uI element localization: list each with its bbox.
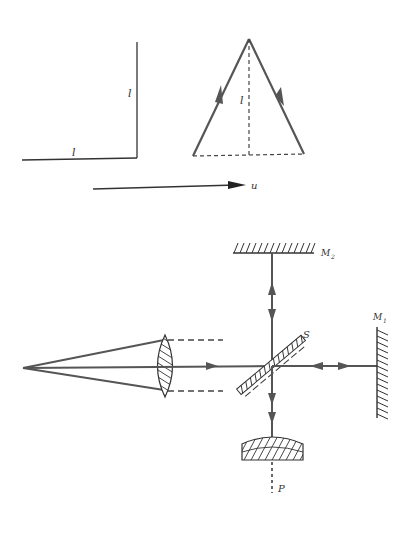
- splitter-label: S: [303, 329, 310, 340]
- focusing-lens: [236, 432, 315, 462]
- beam-arrow-down-icon: [268, 309, 276, 322]
- beam-arrow-down-lower-2-icon: [268, 412, 276, 424]
- triangle-height-label: l: [240, 94, 244, 107]
- beam-arrow-left-icon: [310, 362, 323, 370]
- velocity-arrow-head-icon: [228, 181, 246, 189]
- mirror-m1-subscript: 1: [383, 317, 387, 324]
- beam-arrow-down-lower-1-icon: [268, 393, 276, 405]
- horizontal-arm-label: l: [72, 146, 76, 159]
- central-beam: [23, 366, 272, 368]
- source-ray-upper: [23, 340, 164, 368]
- vertical-arm-label: l: [128, 87, 132, 100]
- arrow-up-right-icon: [215, 85, 223, 104]
- arm-diagram: l l: [22, 42, 137, 160]
- beam-arrow-right-icon: [338, 362, 351, 370]
- velocity-arrow-line: [93, 185, 236, 189]
- mirror-m2: M 2: [233, 243, 335, 260]
- triangle-diagram: l: [193, 39, 304, 156]
- interferometer: M 2: [23, 243, 388, 494]
- source-ray-lower: [23, 368, 164, 390]
- central-beam-arrow-icon: [206, 362, 218, 370]
- mirror-m2-label: M: [320, 248, 331, 258]
- michelson-interferometer-figure: l l l u: [0, 0, 414, 535]
- velocity-arrow: u: [93, 180, 257, 191]
- detector-label: P: [277, 483, 285, 494]
- beam-arrow-up-icon: [268, 282, 276, 295]
- mirror-m2-subscript: 2: [330, 253, 335, 260]
- velocity-label: u: [251, 180, 257, 191]
- mirror-m1-label: M: [372, 312, 383, 322]
- horizontal-arm-line: [22, 158, 137, 160]
